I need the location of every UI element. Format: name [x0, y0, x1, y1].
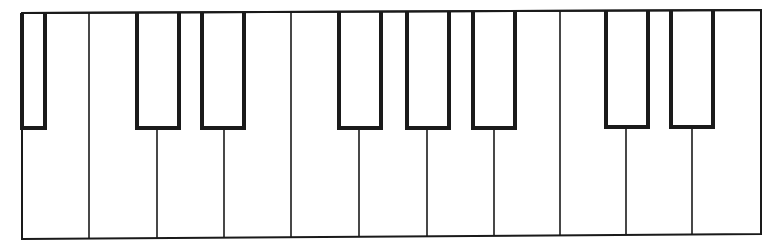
piano-keyboard-diagram — [0, 0, 777, 252]
keyboard-frame — [22, 10, 761, 239]
keyboard-drawing — [0, 0, 777, 252]
